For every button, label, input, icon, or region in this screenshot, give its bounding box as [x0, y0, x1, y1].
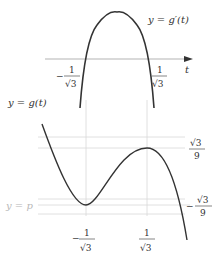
- svg-text:1: 1: [157, 65, 163, 75]
- g-label: y = g(t): [7, 97, 47, 108]
- svg-text:√3: √3: [190, 138, 202, 148]
- g-curve: [42, 124, 187, 240]
- svg-text:9: 9: [194, 151, 200, 161]
- root-label-left: − 1 √3: [56, 65, 80, 89]
- g-prime-label: y = g′(t): [147, 14, 189, 25]
- x-tick-left: − 1 √3: [72, 228, 95, 253]
- svg-text:1: 1: [144, 228, 150, 238]
- y-equals-p-label: y = p: [5, 200, 33, 211]
- svg-text:9: 9: [200, 208, 206, 218]
- x-tick-right: 1 √3: [139, 228, 155, 253]
- g-prime-curve: [80, 12, 154, 108]
- y-tick-lower: − √3 9: [186, 195, 212, 218]
- svg-text:√3: √3: [80, 243, 92, 253]
- svg-text:1: 1: [69, 65, 75, 75]
- svg-text:√3: √3: [65, 79, 77, 89]
- svg-text:1: 1: [84, 228, 90, 238]
- arrow-right-icon: [184, 56, 193, 62]
- svg-text:−: −: [56, 71, 64, 81]
- svg-text:√3: √3: [140, 243, 152, 253]
- diagram: t y = g′(t) − 1 √3 1 √3 y = g(t) y = p √…: [0, 0, 218, 261]
- t-axis: t: [45, 56, 193, 75]
- svg-text:√3: √3: [152, 79, 164, 89]
- svg-text:√3: √3: [197, 195, 209, 205]
- root-label-right: 1 √3: [152, 65, 167, 89]
- t-axis-label: t: [185, 64, 190, 75]
- svg-text:−: −: [72, 233, 80, 243]
- y-tick-upper: √3 9: [189, 138, 205, 161]
- svg-text:−: −: [186, 201, 194, 211]
- helper-lines: [38, 100, 190, 216]
